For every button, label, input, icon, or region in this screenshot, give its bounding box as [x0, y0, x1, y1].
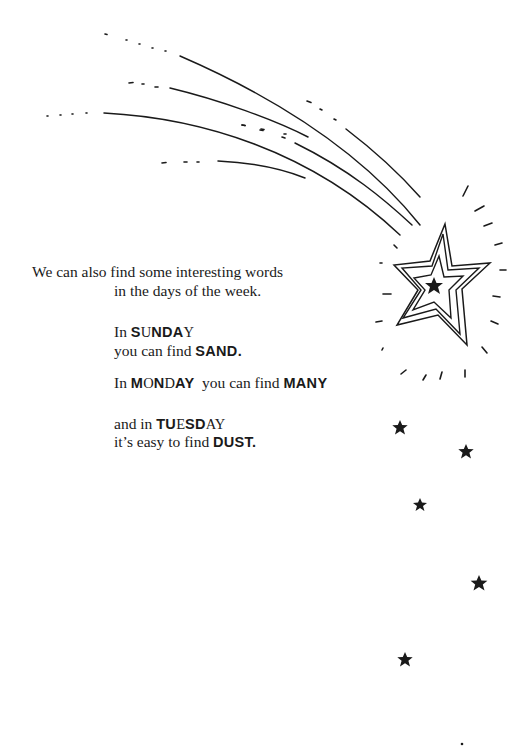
small-stars — [392, 277, 487, 745]
tuesday-line-2: it’s easy to find DUST. — [114, 432, 256, 452]
tail-dots-4 — [162, 162, 199, 163]
tail-dots-2 — [129, 83, 158, 88]
sunday-line-1: In SUNDAY — [114, 322, 194, 342]
sunday-word: SUNDAY — [131, 323, 194, 340]
tail-streaks — [104, 56, 420, 235]
found-word-dust: DUST. — [213, 434, 256, 450]
center-star — [425, 277, 443, 294]
intro-line-1: We can also find some interesting words — [32, 262, 283, 281]
tail-dots-1 — [105, 34, 166, 51]
found-word-many: MANY — [283, 375, 327, 391]
sunday-prefix: In — [114, 323, 131, 340]
found-word-sand: SAND. — [195, 343, 242, 359]
tuesday-word: TUESDAY — [156, 415, 225, 432]
monday-line: In MONDAY you can find MANY — [114, 373, 327, 393]
intro-line-2: in the days of the week. — [114, 281, 261, 300]
tail-dashes — [242, 101, 336, 138]
tuesday-line-1: and in TUESDAY — [114, 414, 225, 434]
monday-word: MONDAY — [131, 374, 195, 391]
page: We can also find some interesting words … — [0, 0, 522, 746]
outer-star — [394, 224, 490, 345]
sunday-line-2: you can find SAND. — [114, 341, 242, 361]
tail-dots-3 — [47, 113, 87, 116]
